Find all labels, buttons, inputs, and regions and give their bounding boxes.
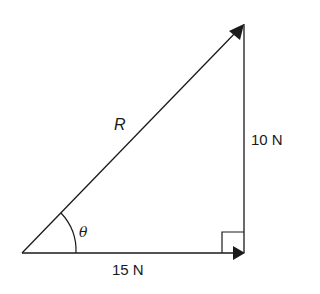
arrowhead-horizontal [233,246,245,260]
label-angle-theta: θ [79,225,87,239]
label-horizontal-force: 15 N [112,262,144,277]
resultant-vector-R [22,30,238,253]
angle-arc-theta [61,213,76,253]
label-vertical-force: 10 N [251,132,283,147]
label-resultant: R [114,117,126,133]
